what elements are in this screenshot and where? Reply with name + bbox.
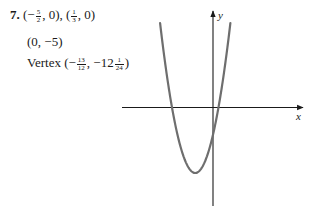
y-axis-label: y xyxy=(217,9,223,21)
parabola-curve xyxy=(160,23,230,173)
parabola-graph: x y xyxy=(0,0,327,215)
x-axis-label: x xyxy=(295,110,301,122)
